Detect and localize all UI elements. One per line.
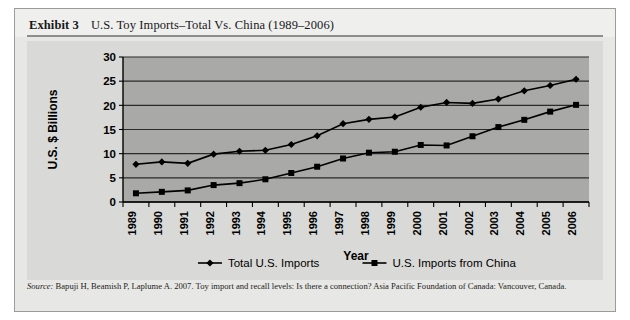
- line-chart-svg: 051015202530U.S. $ Billions1989199019911…: [27, 41, 603, 280]
- source-prefix: Source:: [27, 281, 53, 291]
- header-divider: [27, 35, 603, 37]
- y-tick-label-20: 20: [103, 100, 116, 112]
- marker-2-1997: [340, 156, 346, 162]
- x-tick-label-1996: 1996: [307, 211, 319, 235]
- marker-2-2000: [418, 142, 424, 148]
- exhibit-frame: Exhibit 3U.S. Toy Imports–Total Vs. Chin…: [14, 8, 616, 312]
- x-tick-label-1995: 1995: [281, 211, 293, 235]
- legend-label-2: U.S. Imports from China: [392, 257, 516, 269]
- exhibit-header: Exhibit 3U.S. Toy Imports–Total Vs. Chin…: [15, 9, 615, 37]
- x-tick-label-1992: 1992: [204, 211, 216, 235]
- x-tick-label-2003: 2003: [488, 211, 500, 235]
- x-tick-label-1991: 1991: [178, 211, 190, 235]
- x-tick-label-2001: 2001: [437, 211, 449, 235]
- y-tick-label-15: 15: [103, 124, 116, 136]
- source-note: Source: Bapuji H, Beamish P, Laplume A. …: [27, 281, 603, 293]
- plot-area: 051015202530U.S. $ Billions1989199019911…: [27, 41, 603, 280]
- legend-label-1: Total U.S. Imports: [228, 257, 320, 269]
- marker-2-2001: [444, 142, 450, 148]
- y-tick-label-0: 0: [110, 196, 116, 208]
- legend-marker-1: [206, 259, 213, 266]
- x-tick-label-1999: 1999: [385, 211, 397, 235]
- source-text: Bapuji H, Beamish P, Laplume A. 2007. To…: [53, 281, 566, 291]
- x-tick-label-2006: 2006: [566, 211, 578, 235]
- x-tick-label-1989: 1989: [126, 211, 138, 235]
- marker-2-1994: [262, 176, 268, 182]
- y-tick-label-5: 5: [110, 172, 117, 184]
- marker-2-2004: [521, 117, 527, 123]
- x-tick-label-2004: 2004: [514, 210, 526, 235]
- legend-marker-2: [371, 260, 377, 266]
- marker-2-1998: [366, 150, 372, 156]
- marker-2-1992: [211, 182, 217, 188]
- x-tick-label-2005: 2005: [540, 211, 552, 235]
- y-tick-label-25: 25: [103, 75, 116, 87]
- marker-2-1993: [237, 180, 243, 186]
- x-tick-label-1998: 1998: [359, 211, 371, 235]
- marker-2-1990: [159, 189, 165, 195]
- y-tick-label-10: 10: [103, 148, 116, 160]
- x-tick-label-1997: 1997: [333, 211, 345, 235]
- x-axis-title: Year: [343, 249, 369, 263]
- marker-2-1996: [314, 164, 320, 170]
- x-tick-label-1993: 1993: [230, 211, 242, 235]
- marker-2-2002: [470, 133, 476, 139]
- marker-2-1991: [185, 187, 191, 193]
- marker-2-2003: [495, 124, 501, 130]
- marker-2-2006: [573, 102, 579, 108]
- marker-2-1995: [288, 170, 294, 176]
- chart-figure: 051015202530U.S. $ Billions1989199019911…: [27, 41, 603, 280]
- exhibit-label: Exhibit 3: [29, 18, 79, 32]
- x-tick-label-1990: 1990: [152, 211, 164, 235]
- x-tick-label-2002: 2002: [463, 211, 475, 235]
- exhibit-title: U.S. Toy Imports–Total Vs. China (1989–2…: [91, 18, 334, 32]
- y-axis-title: U.S. $ Billions: [46, 89, 60, 169]
- marker-2-1999: [392, 149, 398, 155]
- marker-2-2005: [547, 109, 553, 115]
- marker-2-1989: [133, 190, 139, 196]
- x-tick-label-2000: 2000: [411, 211, 423, 235]
- y-tick-label-30: 30: [103, 51, 116, 63]
- x-tick-label-1994: 1994: [255, 210, 267, 235]
